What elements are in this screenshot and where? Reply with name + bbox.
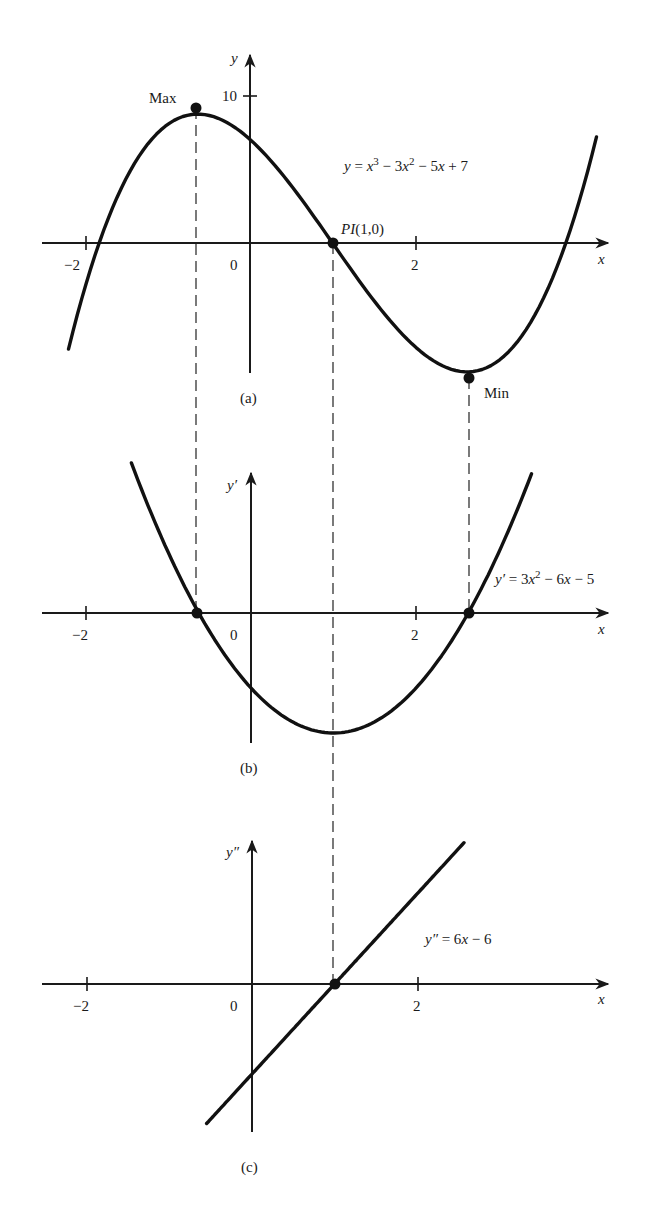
- graph-b: y′ −2 0 2 x y′ = 3x2 − 6x − 5 (b): [42, 463, 608, 777]
- graph-c-tick-2-label: 2: [413, 998, 421, 1014]
- graph-b-caption: (b): [240, 760, 258, 777]
- graph-a-x-label: x: [597, 251, 605, 267]
- graph-b-zero-right: [464, 608, 475, 619]
- graph-c: y″ −2 0 2 x y″ = 6x − 6 (c): [42, 841, 608, 1176]
- max-point: [191, 103, 202, 114]
- graph-b-tick-0-label: 0: [230, 627, 238, 643]
- graph-c-equation: y″ = 6x − 6: [423, 931, 492, 947]
- graph-a-tick-10-label: 10: [222, 88, 237, 104]
- graph-c-zero-point: [330, 979, 341, 990]
- graph-c-tick-0-label: 0: [230, 998, 238, 1014]
- graph-b-x-label: x: [597, 621, 605, 637]
- inflection-label: PI(1,0): [340, 221, 384, 238]
- graph-b-parabola-curve: [131, 463, 531, 733]
- graph-a-y-label: y: [229, 50, 238, 66]
- derivative-figure: y 10 Max −2 0 2 x Min PI(1,0) y = x3 − 3…: [0, 0, 647, 1225]
- min-point: [464, 373, 475, 384]
- graph-b-y-label: y′: [225, 477, 238, 493]
- graph-a-equation: y = x3 − 3x2 − 5x + 7: [342, 155, 469, 174]
- graph-c-x-label: x: [597, 991, 605, 1007]
- graph-a-tick-2-label: 2: [411, 257, 419, 273]
- graph-a-tick-0-label: 0: [230, 257, 238, 273]
- inflection-point: [328, 238, 339, 249]
- graph-a-caption: (a): [240, 390, 257, 407]
- graph-b-zero-left: [192, 608, 203, 619]
- graph-c-caption: (c): [241, 1159, 258, 1176]
- graph-b-tick-2-label: 2: [411, 627, 419, 643]
- max-label: Max: [149, 90, 177, 106]
- graph-c-tick-neg2-label: −2: [73, 998, 89, 1014]
- min-label: Min: [484, 385, 510, 401]
- graph-b-equation: y′ = 3x2 − 6x − 5: [493, 568, 594, 587]
- graph-a: y 10 Max −2 0 2 x Min PI(1,0) y = x3 − 3…: [42, 50, 608, 407]
- graph-a-tick-neg2-label: −2: [64, 257, 80, 273]
- graph-b-tick-neg2-label: −2: [72, 627, 88, 643]
- graph-c-y-label: y″: [224, 844, 240, 860]
